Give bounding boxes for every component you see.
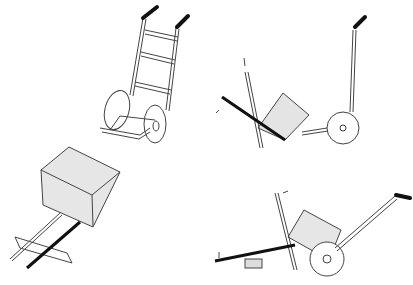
lever-tilting-box-panel [216,17,365,148]
hand-truck-upright-panel [100,7,188,143]
loading-with-lever-panel [215,191,410,276]
illustration [0,0,413,285]
box-on-skids-panel [10,147,120,268]
